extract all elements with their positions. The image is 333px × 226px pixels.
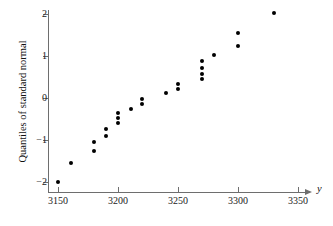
- data-point: [104, 127, 108, 131]
- y-axis-tick-label: −2: [23, 177, 47, 187]
- data-point: [200, 59, 204, 63]
- x-axis-tick-label: 3300: [218, 196, 258, 206]
- data-point: [236, 44, 240, 48]
- y-axis-tick-label: −1: [23, 135, 47, 145]
- x-axis-line: [48, 192, 306, 193]
- data-point: [272, 11, 276, 15]
- data-point: [200, 72, 204, 76]
- y-axis-tick-label: 2: [23, 9, 47, 19]
- data-point: [140, 97, 144, 101]
- data-point: [92, 149, 96, 153]
- data-point: [200, 66, 204, 70]
- y-axis-tick-label: 1: [23, 51, 47, 61]
- data-point: [104, 134, 108, 138]
- x-axis-tick-label: 3200: [98, 196, 138, 206]
- data-point: [129, 107, 133, 111]
- data-point: [56, 180, 60, 184]
- x-axis-tick: [178, 187, 179, 193]
- x-axis-tick: [58, 187, 59, 193]
- data-point: [140, 102, 144, 106]
- data-point: [116, 116, 120, 120]
- x-axis-tick-label: 3350: [278, 196, 318, 206]
- y-axis-tick-label: 0: [23, 93, 47, 103]
- data-point: [176, 87, 180, 91]
- x-axis-tick: [118, 187, 119, 193]
- data-point: [116, 121, 120, 125]
- x-axis-tick: [298, 187, 299, 193]
- data-point: [116, 111, 120, 115]
- data-point: [212, 53, 216, 57]
- data-point: [164, 91, 168, 95]
- qq-plot-scatter-chart: Quantiles of standard normal y 210−1−2 3…: [0, 0, 333, 226]
- data-point: [236, 31, 240, 35]
- x-axis-tick: [238, 187, 239, 193]
- data-point: [176, 82, 180, 86]
- data-point: [200, 77, 204, 81]
- x-axis-tick-label: 3250: [158, 196, 198, 206]
- x-axis-tick-label: 3150: [38, 196, 78, 206]
- y-axis-line: [48, 10, 49, 193]
- data-point: [92, 140, 96, 144]
- data-point: [69, 161, 73, 165]
- x-axis-title: y: [317, 183, 322, 194]
